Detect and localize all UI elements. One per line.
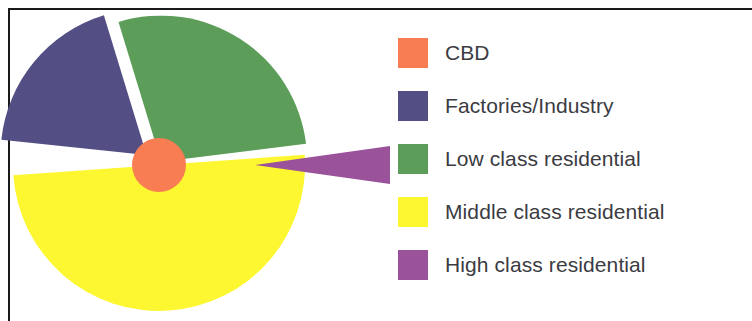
- legend-swatch-middle-class: [398, 197, 428, 227]
- legend-item-high-class: High class residential: [398, 238, 738, 291]
- legend-label-high-class: High class residential: [445, 253, 646, 277]
- pie-slice-low-class-residential: [118, 16, 306, 162]
- legend-label-middle-class: Middle class residential: [445, 200, 665, 224]
- legend-item-middle-class: Middle class residential: [398, 185, 738, 238]
- legend-item-cbd: CBD: [398, 26, 738, 79]
- legend: CBD Factories/Industry Low class residen…: [398, 26, 738, 298]
- legend-swatch-low-class: [398, 144, 428, 174]
- legend-item-low-class: Low class residential: [398, 132, 738, 185]
- legend-item-factories: Factories/Industry: [398, 79, 738, 132]
- pie-slice-cbd: [132, 138, 186, 192]
- legend-label-cbd: CBD: [445, 41, 490, 65]
- legend-swatch-cbd: [398, 38, 428, 68]
- legend-swatch-high-class: [398, 250, 428, 280]
- legend-swatch-factories: [398, 91, 428, 121]
- pie-chart: [0, 0, 390, 321]
- legend-label-factories: Factories/Industry: [445, 94, 614, 118]
- pie-chart-svg: [0, 0, 390, 321]
- legend-label-low-class: Low class residential: [445, 147, 641, 171]
- figure-canvas: CBD Factories/Industry Low class residen…: [0, 0, 752, 321]
